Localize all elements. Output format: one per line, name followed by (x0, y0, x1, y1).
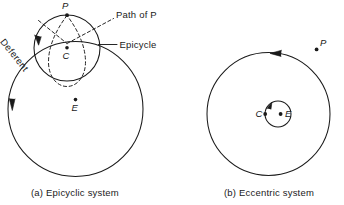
eccentric-circle (207, 53, 330, 176)
earth-label-e-a: E (72, 103, 78, 113)
path-of-p-leader-right (67, 19, 114, 44)
epicycle-center-label-c: C (63, 51, 70, 61)
orbit-direction-arrow-icon (270, 50, 282, 56)
diagram-canvas (0, 0, 344, 205)
center-point-c-b (263, 112, 267, 116)
path-of-p-leader-left (39, 21, 68, 44)
deferent-direction-arrow-icon (9, 99, 15, 111)
figure-container: P C E Path of P Epicycle Deferent P C E … (0, 0, 344, 205)
center-label-c-b: C (256, 109, 263, 119)
planet-p-point-a (65, 13, 69, 17)
epicycle-direction-arrow-icon (35, 35, 42, 45)
panel-a-caption: (a) Epicyclic system (31, 187, 119, 198)
planet-p-label-a: P (62, 1, 68, 11)
epicycle-label: Epicycle (120, 40, 157, 50)
panel-b-caption: (b) Eccentric system (224, 187, 314, 198)
earth-point-e-a (74, 98, 78, 102)
path-of-p-label: Path of P (116, 10, 157, 20)
earth-label-e-b: E (285, 109, 291, 119)
planet-p-label-b: P (320, 38, 326, 48)
earth-point-e-b (279, 112, 283, 116)
planet-p-point-b (315, 48, 319, 52)
